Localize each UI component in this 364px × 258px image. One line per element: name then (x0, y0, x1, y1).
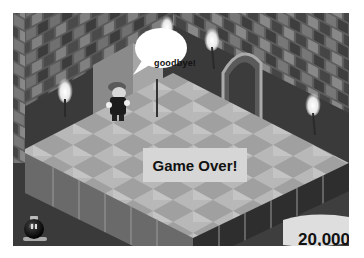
score-counter: 20,000 (295, 229, 349, 246)
isometric-room (13, 13, 349, 246)
game-viewport: goodbye! Game Over! 20,000 (13, 13, 349, 246)
speech-bubble-text: goodbye! (147, 58, 203, 68)
game-over-banner: Game Over! (143, 148, 247, 182)
